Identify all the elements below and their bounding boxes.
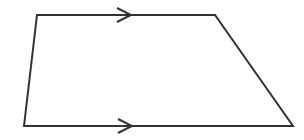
trapezoid-diagram [0, 0, 304, 140]
trapezoid-outline [24, 15, 293, 126]
